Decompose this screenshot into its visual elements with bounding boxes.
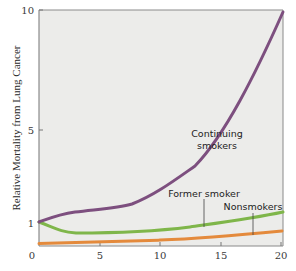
nonsmokers-label: Nonsmokers [224, 201, 283, 212]
x-tick-label: 15 [215, 250, 228, 261]
y-tick-label: 5 [28, 125, 34, 136]
former-smoker-label: Former smoker [168, 188, 240, 199]
x-tick-labels: 0 5 10 15 20 [29, 250, 288, 261]
x-tick-label: 10 [154, 250, 167, 261]
x-tick-label: 20 [275, 250, 288, 261]
continuing-smokers-label-line2: smokers [197, 140, 237, 151]
x-tick-label: 5 [97, 250, 103, 261]
y-axis-label: Relative Mortality from Lung Cancer [10, 45, 22, 210]
y-tick-label: 10 [21, 5, 34, 16]
y-tick-label: 1 [28, 218, 34, 229]
lung-cancer-mortality-chart: 10 5 1 0 5 10 15 20 Relative Mortality f… [0, 0, 296, 271]
y-tick-labels: 10 5 1 [21, 5, 34, 229]
continuing-smokers-label: Continuing [191, 128, 243, 139]
x-tick-label: 0 [29, 250, 35, 261]
